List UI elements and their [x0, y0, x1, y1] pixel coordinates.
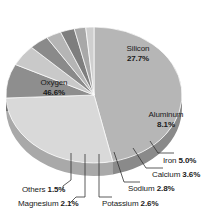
slice-label-calcium: Calcium 3.6%: [152, 170, 200, 180]
slice-label-sodium-name: Sodium: [128, 184, 157, 193]
pie-chart: Oxygen 46.6% Silicon 27.7% Aluminum 8.1%…: [0, 0, 211, 216]
slice-label-aluminum-name: Aluminum: [133, 110, 199, 120]
slice-label-potassium-value: 2.6%: [141, 199, 159, 208]
slice-label-others-name: Others: [22, 185, 48, 194]
pie-slice-silicon[interactable]: [6, 95, 113, 163]
slice-label-iron-value: 5.0%: [179, 156, 197, 165]
slice-label-aluminum: Aluminum 8.1%: [133, 110, 199, 129]
slice-label-magnesium-value: 2.1%: [61, 199, 79, 208]
slice-label-potassium-name: Potassium: [102, 199, 141, 208]
slice-label-silicon-name: Silicon: [110, 44, 166, 54]
slice-label-iron-name: Iron: [163, 156, 179, 165]
slice-label-potassium: Potassium 2.6%: [102, 199, 158, 209]
slice-label-oxygen: Oxygen 46.6%: [26, 78, 82, 97]
slice-label-calcium-name: Calcium: [152, 170, 182, 179]
slice-label-sodium: Sodium 2.8%: [128, 184, 175, 194]
slice-label-silicon-value: 27.7%: [110, 54, 166, 64]
pie-chart-svg: [0, 0, 211, 216]
slice-label-others: Others 1.5%: [22, 185, 65, 195]
slice-label-others-value: 1.5%: [48, 185, 66, 194]
slice-label-iron: Iron 5.0%: [163, 156, 196, 166]
slice-label-oxygen-value: 46.6%: [26, 88, 82, 98]
slice-label-oxygen-name: Oxygen: [26, 78, 82, 88]
slice-label-magnesium: Magnesium 2.1%: [18, 199, 78, 209]
slice-label-calcium-value: 3.6%: [182, 170, 200, 179]
slice-label-aluminum-value: 8.1%: [133, 120, 199, 130]
slice-label-silicon: Silicon 27.7%: [110, 44, 166, 63]
slice-label-sodium-value: 2.8%: [157, 184, 175, 193]
slice-label-magnesium-name: Magnesium: [18, 199, 61, 208]
